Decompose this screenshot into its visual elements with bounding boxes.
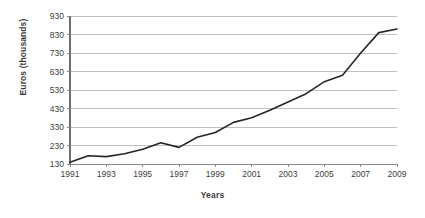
data-series-line: [70, 29, 397, 162]
x-tick-label: 1993: [86, 169, 126, 179]
x-axis-title: Years: [0, 190, 425, 200]
line-chart: 130230330430530630730830930 199119931995…: [0, 0, 425, 218]
x-tick-label: 1991: [50, 169, 90, 179]
y-tick-label: 330: [30, 122, 64, 132]
x-tick-label: 2009: [377, 169, 417, 179]
y-axis-title: Euros (thousands): [18, 2, 28, 112]
x-tick-label: 2005: [304, 169, 344, 179]
tick-marks: [67, 16, 397, 167]
y-tick-label: 930: [30, 11, 64, 21]
x-tick-label: 1997: [159, 169, 199, 179]
y-tick-label: 730: [30, 48, 64, 58]
y-tick-label: 530: [30, 85, 64, 95]
y-tick-label: 830: [30, 30, 64, 40]
x-tick-label: 2001: [232, 169, 272, 179]
plot-area: 130230330430530630730830930 199119931995…: [0, 0, 425, 218]
x-tick-label: 1995: [123, 169, 163, 179]
y-tick-label: 630: [30, 67, 64, 77]
x-tick-label: 2003: [268, 169, 308, 179]
y-tick-label: 430: [30, 104, 64, 114]
y-axis-tick-labels: 130230330430530630730830930: [28, 0, 64, 218]
gridlines: [70, 16, 397, 164]
x-axis-tick-labels: 1991199319951997199920012003200520072009: [0, 169, 425, 185]
x-tick-label: 1999: [195, 169, 235, 179]
series-line: [70, 29, 397, 162]
y-tick-label: 130: [30, 159, 64, 169]
x-tick-label: 2007: [341, 169, 381, 179]
y-tick-label: 230: [30, 141, 64, 151]
